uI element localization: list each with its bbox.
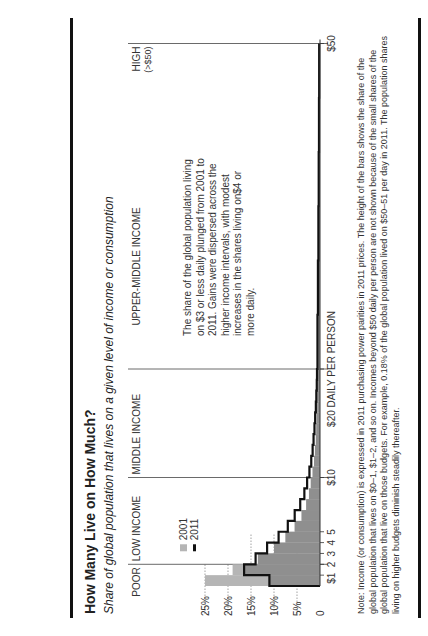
band-label: LOW INCOME bbox=[131, 495, 142, 561]
bar-overlap bbox=[274, 543, 320, 554]
band-label: POOR bbox=[131, 567, 142, 596]
bar-overlap bbox=[244, 564, 320, 575]
chart-note: Note: Income (or consumption) is express… bbox=[356, 34, 402, 614]
y-tick-label: 0 bbox=[315, 610, 326, 616]
y-tick-label: 10% bbox=[269, 596, 280, 616]
x-tick-label: $10 bbox=[326, 469, 337, 486]
chart-frame: How Many Live on How Much? Share of glob… bbox=[0, 0, 428, 636]
legend-label-2011: 2011 bbox=[189, 518, 200, 540]
x-tick-label: $20 DAILY PER PERSON bbox=[326, 311, 337, 427]
bar-overlap bbox=[315, 445, 320, 456]
y-tick-label: 20% bbox=[223, 596, 234, 616]
band-label: HIGH bbox=[131, 47, 142, 72]
bar-overlap bbox=[309, 488, 320, 499]
bar-overlap bbox=[269, 575, 320, 586]
bar-overlap bbox=[286, 532, 321, 543]
bar-overlap bbox=[302, 510, 320, 521]
annotation: The share of the global population livin… bbox=[182, 146, 257, 336]
y-tick-label: 5% bbox=[292, 601, 303, 616]
bar-overlap bbox=[316, 434, 320, 445]
x-tick-label: 3 bbox=[326, 550, 337, 556]
legend-swatch-2001 bbox=[180, 544, 187, 551]
legend-label-2001: 2001 bbox=[178, 518, 189, 541]
bar-overlap bbox=[313, 467, 320, 478]
y-tick-label: 25% bbox=[200, 596, 211, 616]
x-tick-label: $1 bbox=[326, 572, 337, 584]
bar-overlap bbox=[316, 423, 320, 434]
bar-overlap bbox=[258, 553, 320, 564]
x-tick-label: 5 bbox=[326, 529, 337, 535]
bottom-rule bbox=[418, 18, 421, 618]
bar-overlap bbox=[311, 478, 320, 489]
legend-swatch-2011 bbox=[193, 544, 196, 551]
band-label: UPPER-MIDDLE INCOME bbox=[131, 207, 142, 326]
bar-overlap bbox=[295, 521, 320, 532]
bar-overlap bbox=[306, 499, 320, 510]
y-tick-label: 15% bbox=[246, 596, 257, 616]
x-tick-label: 2 bbox=[326, 561, 337, 567]
band-label: MIDDLE INCOME bbox=[131, 394, 142, 475]
x-tick-label: $50 bbox=[326, 35, 337, 52]
band-sublabel: (>$50) bbox=[143, 47, 153, 73]
bar-overlap bbox=[314, 456, 320, 467]
x-tick-label: 4 bbox=[326, 540, 337, 546]
